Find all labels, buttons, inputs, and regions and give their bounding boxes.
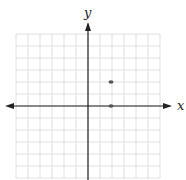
y-axis-up-arrow-icon	[85, 22, 91, 31]
x-axis-left-arrow-icon	[5, 103, 14, 109]
data-point	[109, 80, 114, 84]
coordinate-plane: x y	[0, 0, 186, 180]
data-point	[109, 104, 114, 108]
y-axis-label: y	[83, 5, 92, 20]
x-axis-right-arrow-icon	[163, 103, 172, 109]
x-axis-label: x	[177, 98, 185, 113]
